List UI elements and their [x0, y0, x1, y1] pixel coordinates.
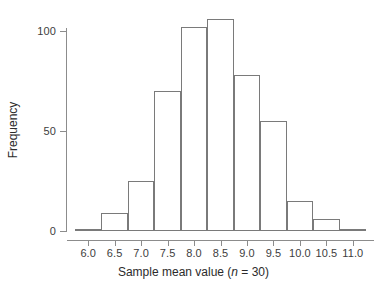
x-axis-tick	[300, 241, 301, 246]
y-axis-tick-label: 0	[16, 226, 56, 237]
x-axis-tick	[247, 241, 248, 246]
x-axis-tick	[115, 241, 116, 246]
x-axis-tick	[141, 241, 142, 246]
y-axis-line	[66, 28, 67, 232]
histogram-bar	[340, 229, 366, 231]
x-axis-title-after: = 30)	[238, 265, 269, 279]
x-axis-tick	[353, 241, 354, 246]
x-axis-tick	[221, 241, 222, 246]
histogram-bar	[128, 181, 154, 231]
histogram-bar	[287, 201, 313, 231]
histogram-bar	[75, 229, 101, 231]
x-axis-tick-label: 11.0	[333, 248, 373, 259]
histogram-bar	[234, 75, 260, 231]
y-axis-tick-label: 50	[16, 126, 56, 137]
x-axis-tick	[273, 241, 274, 246]
y-axis-tick	[60, 131, 66, 132]
y-axis-tick-label: 100	[16, 26, 56, 37]
y-axis-title: Frequency	[7, 70, 19, 190]
x-axis-title: Sample mean value (n = 30)	[0, 266, 387, 278]
histogram-bar	[260, 121, 286, 231]
x-axis-tick	[168, 241, 169, 246]
x-axis-title-before: Sample mean value (	[118, 265, 231, 279]
histogram-figure: 050100 6.06.57.07.58.08.59.09.510.010.51…	[0, 0, 387, 294]
y-axis-tick	[60, 31, 66, 32]
bars-layer	[0, 0, 387, 231]
histogram-bar	[181, 27, 207, 231]
histogram-bar	[313, 219, 339, 231]
x-axis-title-italic-n: n	[231, 265, 238, 279]
histogram-bar	[154, 91, 180, 231]
x-axis-tick	[88, 241, 89, 246]
y-axis-tick	[60, 231, 66, 232]
histogram-bar	[207, 19, 233, 231]
histogram-bar	[101, 213, 127, 231]
x-axis-tick	[326, 241, 327, 246]
x-axis-tick	[194, 241, 195, 246]
